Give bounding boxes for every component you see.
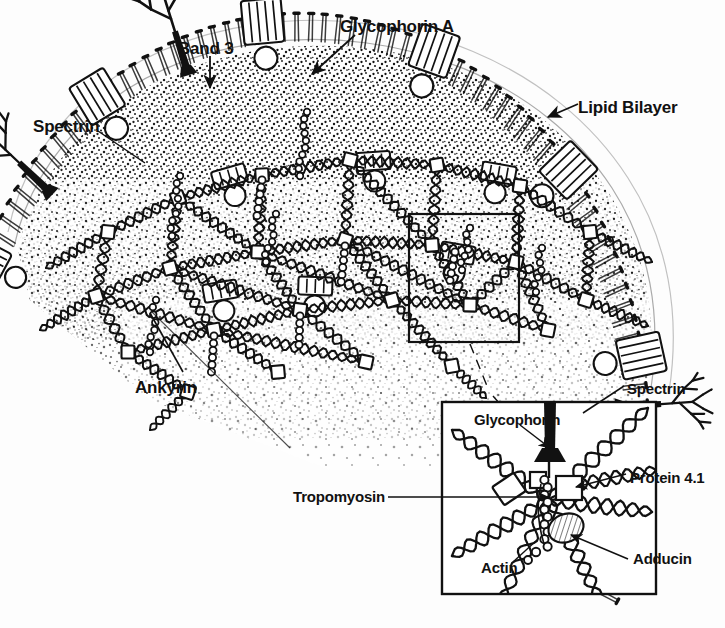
actin-protofilament xyxy=(450,255,457,262)
ankyrin-bead-chain xyxy=(177,173,184,180)
protein-4-1 xyxy=(430,158,445,173)
ankyrin-bead-chain xyxy=(458,259,465,266)
actin-protofilament xyxy=(451,248,458,255)
actin-protofilament xyxy=(258,176,265,183)
label-inset-protein-4-1: Protein 4.1 xyxy=(630,470,705,485)
ankyrin-bead-chain xyxy=(269,239,276,246)
ankyrin-bead-chain xyxy=(299,151,306,158)
ankyrin-bead-chain xyxy=(538,267,545,274)
actin-protofilament xyxy=(210,340,217,347)
ankyrin-bead-chain xyxy=(169,217,176,224)
ankyrin-bead-chain xyxy=(464,239,471,246)
label-inset-glycophorin: Glycophorin xyxy=(474,412,560,427)
protein-4-1 xyxy=(444,358,459,373)
membrane-skeleton-illustration xyxy=(0,0,725,628)
actin-protofilament xyxy=(257,184,264,191)
protein-4-1 xyxy=(578,292,594,308)
ankyrin-bead-chain xyxy=(461,253,468,260)
actin-protofilament xyxy=(254,205,261,212)
ankyrin-bead-chain xyxy=(153,297,160,304)
actin-protofilament xyxy=(208,368,215,375)
ankyrin-bead-chain xyxy=(303,137,310,144)
ankyrin-bead-chain xyxy=(296,158,303,165)
actin-protofilament xyxy=(532,548,540,556)
ankyrin-bead-chain xyxy=(535,252,542,259)
actin-protofilament xyxy=(341,250,348,257)
ankyrin-bead-chain xyxy=(168,225,175,232)
ankyrin-bead-chain xyxy=(273,211,280,218)
ankyrin-bead-chain xyxy=(175,203,182,210)
ankyrin-bead-chain xyxy=(173,187,180,194)
actin-protofilament xyxy=(524,556,532,564)
ankyrin-bead-chain xyxy=(295,165,302,172)
actin-protofilament xyxy=(296,320,303,327)
ankyrin-bead-chain xyxy=(270,232,277,239)
ankyrin-bead-chain xyxy=(174,180,181,187)
figure-canvas: Spectrin Band 3 Glycophorin A Lipid Bila… xyxy=(0,0,725,628)
label-inset-actin: Actin xyxy=(481,560,518,575)
protein-4-1 xyxy=(540,322,555,337)
ankyrin-bead-chain xyxy=(147,334,154,341)
protein-4-1 xyxy=(425,238,439,252)
actin-protofilament xyxy=(449,263,456,270)
protein-4-1 xyxy=(513,179,528,194)
actin-protofilament xyxy=(209,347,216,354)
ankyrin-bead-chain xyxy=(304,109,311,116)
ankyrin-bead-chain xyxy=(173,210,180,217)
protein-4-1 xyxy=(508,254,524,270)
ankyrin-bead-chain xyxy=(147,349,154,356)
label-glycophorin-a: Glycophorin A xyxy=(340,18,454,35)
actin-protofilament xyxy=(338,278,345,285)
actin-protofilament xyxy=(255,198,262,205)
protein-4-1 xyxy=(583,225,597,239)
actin-protofilament xyxy=(340,257,347,264)
actin-protofilament xyxy=(210,332,217,339)
label-inset-tropomyosin: Tropomyosin xyxy=(293,489,385,504)
ankyrin-bead-chain xyxy=(300,123,307,130)
actin-protofilament xyxy=(296,327,303,334)
ankyrin-bead-chain xyxy=(297,173,304,180)
actin-protofilament xyxy=(338,271,345,278)
protein-4-1 xyxy=(271,365,285,379)
protein-4-1 xyxy=(101,225,115,239)
actin-protofilament xyxy=(341,242,348,249)
protein-4-1 xyxy=(122,346,135,359)
ankyrin-bead-chain xyxy=(463,231,470,238)
actin-protofilament xyxy=(209,354,216,361)
label-spectrin: Spectrin xyxy=(33,118,99,135)
actin-protofilament xyxy=(296,312,303,319)
actin-protofilament xyxy=(339,264,346,271)
actin-protofilament xyxy=(256,191,263,198)
ankyrin-bead-chain xyxy=(145,341,152,348)
protein-4-1 xyxy=(384,292,400,308)
ankyrin-bead-chain xyxy=(301,116,308,123)
protein-4-1 xyxy=(358,354,373,369)
label-ankyrin: Ankyrin xyxy=(135,379,197,396)
protein-4-1 xyxy=(556,476,582,500)
ankyrin-bead-chain xyxy=(533,289,540,296)
protein-4-1 xyxy=(162,260,178,276)
label-inset-spectrin: Spectrin xyxy=(627,381,685,396)
actin-protofilament xyxy=(253,212,260,219)
ankyrin-bead-chain xyxy=(175,195,182,202)
label-inset-adducin: Adducin xyxy=(633,551,692,566)
ankyrin-bead-chain xyxy=(535,274,542,281)
ankyrin-bead-chain xyxy=(302,144,309,151)
actin-protofilament xyxy=(446,277,453,284)
protein-4-1 xyxy=(88,288,104,304)
ankyrin-bead-chain xyxy=(531,281,538,288)
ankyrin-bead-chain xyxy=(262,251,269,258)
label-lipid-bilayer: Lipid Bilayer xyxy=(578,99,677,116)
ankyrin-bead-chain xyxy=(459,267,466,274)
ankyrin-bead-chain xyxy=(465,246,472,253)
ankyrin-bead-chain xyxy=(169,233,176,240)
inset-detail xyxy=(442,402,656,604)
ankyrin-bead-chain xyxy=(539,245,546,252)
ankyrin-bead-chain xyxy=(150,304,157,311)
actin-protofilament xyxy=(295,341,302,348)
protein-4-1 xyxy=(463,298,476,311)
ankyrin-bead-chain xyxy=(301,130,308,137)
ankyrin-bead-chain xyxy=(269,224,276,231)
ankyrin-bead-chain xyxy=(265,245,272,252)
actin-protofilament xyxy=(448,270,455,277)
